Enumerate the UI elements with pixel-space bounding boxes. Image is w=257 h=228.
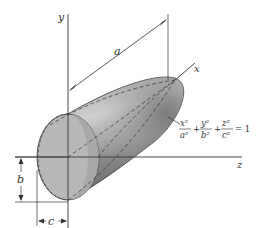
a-arrow-start xyxy=(69,84,76,91)
z-axis-label: z xyxy=(236,159,243,170)
svg-text:b²: b² xyxy=(201,130,210,140)
b-label: b xyxy=(17,173,24,186)
svg-text:+: + xyxy=(193,124,200,134)
x-axis-label: x xyxy=(194,63,200,74)
svg-text:+: + xyxy=(214,124,221,134)
svg-text:c²: c² xyxy=(222,130,231,140)
c-arrow-right xyxy=(61,219,67,224)
a-arrow-end xyxy=(160,19,167,26)
svg-text:z²: z² xyxy=(221,118,230,128)
b-arrow-top xyxy=(19,158,24,164)
c-arrow-left xyxy=(38,219,44,224)
b-arrow-bottom xyxy=(19,195,24,201)
x-axis xyxy=(175,63,195,80)
svg-text:x²: x² xyxy=(180,118,189,128)
ellipsoid-equation: x² a² + y² b² + z² c² = 1 xyxy=(179,118,250,140)
c-label: c xyxy=(48,215,54,228)
svg-text:= 1: = 1 xyxy=(235,124,250,134)
svg-text:y²: y² xyxy=(200,118,210,128)
ellipsoid-diagram: y z x a b c x² a² + y² b² + z² c² = 1 xyxy=(0,0,257,228)
a-label: a xyxy=(114,45,121,58)
svg-text:a²: a² xyxy=(180,130,189,140)
y-axis-label: y xyxy=(57,11,65,24)
